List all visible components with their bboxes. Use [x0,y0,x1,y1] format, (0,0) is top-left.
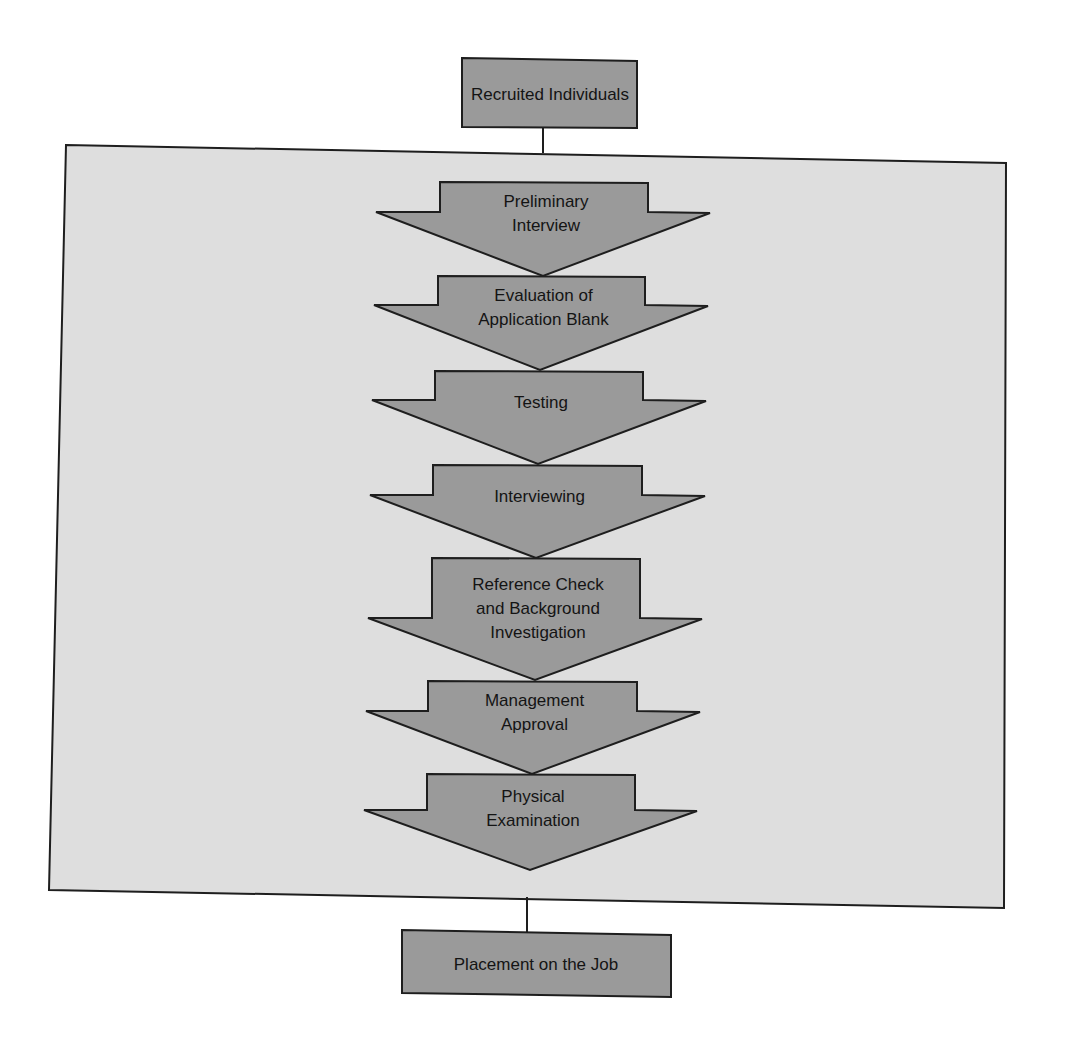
step-label-line: Interviewing [494,487,585,506]
step-label-line: and Background [476,599,600,618]
step-label-line: Management [485,691,585,710]
end-node-label: Placement on the Job [454,955,618,974]
start-node-label: Recruited Individuals [471,85,629,104]
end-node: Placement on the Job [402,930,671,997]
step-label-line: Evaluation of [494,286,593,305]
step-label-line: Approval [501,715,568,734]
step-label-line: Testing [514,393,568,412]
step-label-line: Investigation [490,623,585,642]
selection-process-flowchart: Recruited Individuals PreliminaryIntervi… [0,0,1069,1046]
step-label-line: Physical [501,787,564,806]
step-label-line: Application Blank [478,310,609,329]
step-label-line: Examination [486,811,580,830]
step-label-line: Preliminary [503,192,589,211]
step-label-line: Interview [512,216,581,235]
start-node: Recruited Individuals [462,58,637,128]
step-label-line: Reference Check [472,575,604,594]
